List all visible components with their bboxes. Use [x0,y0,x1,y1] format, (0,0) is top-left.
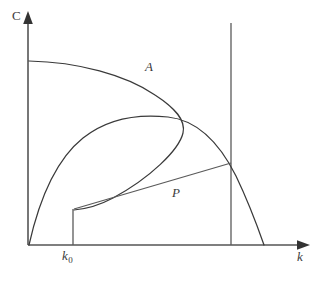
diagram-svg [0,0,320,281]
k0-tick-label: k0 [62,249,72,262]
k0-tick-label-subscript: 0 [68,255,73,265]
path-P-label: P [172,186,180,199]
saddle-path-A-curve [29,61,183,210]
saddle-path-A-label: A [145,60,153,73]
consumption-axis-label: C [12,9,21,22]
k0-tick-label-base: k [62,248,68,263]
figure-canvas: C k A P k0 [0,0,320,281]
path-P-line [74,163,231,209]
production-function-curve [29,116,264,245]
capital-axis-label: k [297,250,303,263]
consumption-axis-arrowhead [23,11,33,24]
